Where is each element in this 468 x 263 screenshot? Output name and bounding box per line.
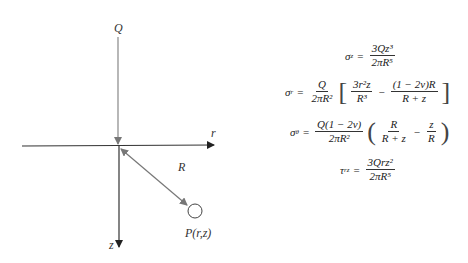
numerator: 3Qrz²	[366, 156, 395, 170]
paren: )	[441, 119, 450, 145]
subscript: rz	[344, 166, 349, 174]
denominator: 2πR²	[309, 92, 334, 105]
distance-r-arrow	[121, 149, 187, 205]
point-label: P(r,z)	[185, 226, 211, 241]
subscript: θ	[295, 128, 298, 136]
numerator: Q(1 − 2v)	[315, 118, 363, 132]
numerator: 3r²z	[351, 78, 372, 92]
r-axis	[22, 145, 214, 146]
denominator: R	[426, 132, 437, 145]
denominator: 2πR⁵	[367, 170, 393, 183]
minus: −	[378, 86, 384, 98]
fraction: zR	[426, 118, 437, 145]
fraction: Q2πR²	[309, 78, 334, 105]
equals: =	[357, 50, 363, 62]
fraction: 3r²zR³	[351, 78, 372, 105]
fraction: (1 − 2v)RR + z	[391, 78, 438, 105]
fraction: RR + z	[380, 118, 408, 145]
load-label-q: Q	[114, 21, 123, 36]
numerator: (1 − 2v)R	[391, 78, 438, 92]
bracket: [	[338, 79, 347, 105]
numerator: 3Qz³	[370, 42, 395, 56]
equation-sigma-r: σr = Q2πR² [ 3r²zR³ − (1 − 2v)RR + z ]	[285, 78, 452, 105]
fraction: 3Qz³2πR⁵	[369, 42, 395, 69]
numerator: R	[388, 118, 399, 132]
bracket: ]	[442, 79, 451, 105]
minus: −	[414, 126, 420, 138]
r-axis-label: r	[211, 126, 216, 141]
paren: (	[367, 119, 376, 145]
equals: =	[353, 164, 359, 176]
fraction: 3Qrz²2πR⁵	[366, 156, 395, 183]
subscript: z	[350, 52, 353, 60]
point-p-circle	[188, 204, 202, 218]
denominator: R³	[355, 92, 369, 105]
fraction: Q(1 − 2v)2πR²	[315, 118, 363, 145]
numerator: z	[427, 118, 435, 132]
distance-label-r: R	[178, 160, 185, 175]
denominator: R + z	[380, 132, 408, 145]
equation-sigma-z: σz = 3Qz³2πR⁵	[345, 42, 397, 69]
subscript: r	[290, 88, 293, 96]
denominator: 2πR²	[327, 132, 352, 145]
z-axis-label: z	[109, 238, 114, 253]
boussinesq-diagram	[0, 0, 240, 263]
equation-sigma-theta: σθ = Q(1 − 2v)2πR² ( RR + z − zR )	[290, 118, 451, 145]
equals: =	[297, 86, 303, 98]
denominator: 2πR⁵	[369, 56, 395, 69]
equation-tau-rz: τrz = 3Qrz²2πR⁵	[340, 156, 397, 183]
equals: =	[303, 126, 309, 138]
numerator: Q	[316, 78, 328, 92]
denominator: R + z	[400, 92, 428, 105]
